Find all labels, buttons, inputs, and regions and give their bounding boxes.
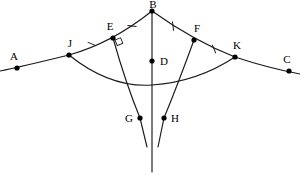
vertex-dot-a [14,65,19,70]
point-label-k: K [233,39,241,51]
point-label-g: G [125,112,133,124]
geometry-diagram: AJEBFKCDGH [0,0,300,175]
geometry-canvas: AJEBFKCDGH [0,0,300,175]
right-angle-icon [115,38,123,46]
point-label-j: J [68,37,73,49]
point-label-b: B [149,0,156,10]
point-label-h: H [171,112,179,124]
vertex-dot-f [191,37,196,42]
upper-arc-path [0,11,300,74]
point-label-e: E [107,20,114,32]
right-angle-marker-group [115,38,123,46]
point-label-f: F [194,22,200,34]
vertex-dot-e [110,35,115,40]
curve-e-to-g [113,38,147,147]
vertex-dot-g [137,115,142,120]
vertex-dot-c [286,68,291,73]
vertex-dot-k [232,54,237,59]
point-label-c: C [283,53,290,65]
point-label-d: D [160,55,168,67]
vertex-dot-d [149,58,154,63]
point-label-a: A [10,50,18,62]
vertex-dot-h [161,115,166,120]
vertex-dot-j [66,52,71,57]
vertex-dots-group [14,8,291,120]
